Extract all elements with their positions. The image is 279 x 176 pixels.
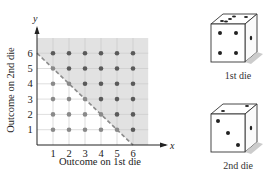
data-point [115, 51, 120, 56]
data-point [99, 66, 104, 71]
data-point [99, 51, 104, 56]
die-2-icon [207, 100, 269, 156]
data-point [83, 66, 88, 71]
data-point [51, 66, 56, 71]
y-tick-label: 6 [27, 48, 32, 59]
x-axis-label: Outcome on 1st die [59, 156, 141, 167]
data-point [83, 97, 88, 102]
data-point [67, 51, 72, 56]
data-point [67, 82, 72, 87]
y-tick-label: 2 [27, 109, 32, 120]
data-point [83, 51, 88, 56]
die-2-label: 2nd die [203, 160, 273, 171]
data-point [115, 97, 120, 102]
y-axis-letter: y [32, 13, 38, 24]
data-point [51, 51, 56, 56]
data-point [51, 127, 56, 132]
data-point [131, 51, 136, 56]
y-axis-label: Outcome on 2nd die [5, 47, 16, 133]
data-point [51, 82, 56, 87]
x-tick-label: 1 [50, 148, 55, 159]
data-point [83, 82, 88, 87]
data-point [131, 112, 136, 117]
die-1-icon [207, 10, 269, 66]
data-point [131, 127, 136, 132]
data-point [67, 112, 72, 117]
data-point [51, 112, 56, 117]
data-point [131, 66, 136, 71]
data-point [83, 127, 88, 132]
data-point [99, 112, 104, 117]
data-point [131, 97, 136, 102]
data-point [99, 97, 104, 102]
data-point [67, 66, 72, 71]
y-tick-label: 3 [27, 94, 32, 105]
data-point [51, 97, 56, 102]
data-point [115, 82, 120, 87]
data-point [115, 112, 120, 117]
die-1-label: 1st die [203, 70, 273, 81]
data-point [67, 127, 72, 132]
y-tick-label: 1 [27, 124, 32, 135]
data-point [67, 97, 72, 102]
data-point [115, 66, 120, 71]
data-point [83, 112, 88, 117]
data-point [99, 82, 104, 87]
die-1: 1st die [203, 10, 273, 81]
data-point [115, 127, 120, 132]
y-tick-label: 4 [27, 78, 33, 89]
data-point [131, 82, 136, 87]
scatter-chart: 123456123456 Outcome on 1st die Outcome … [0, 0, 185, 176]
y-tick-label: 5 [27, 63, 32, 74]
data-point [99, 127, 104, 132]
die-2: 2nd die [203, 100, 273, 171]
x-axis-letter: x [169, 140, 175, 151]
